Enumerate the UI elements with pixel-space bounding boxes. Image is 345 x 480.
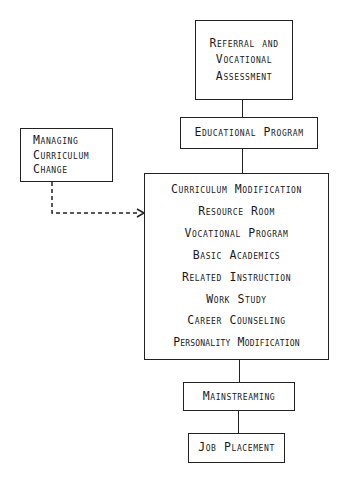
connector-mainstreaming-to-job: [238, 411, 239, 433]
component-item: Career Counseling: [187, 315, 285, 327]
job-placement-label: Job Placement: [198, 442, 275, 454]
component-item: Basic Academics: [193, 250, 281, 262]
job-placement-box: Job Placement: [188, 433, 285, 463]
arrowhead-icon: [137, 209, 144, 217]
component-item: Related Instruction: [182, 272, 291, 284]
mainstreaming-box: Mainstreaming: [183, 382, 295, 411]
component-item: Work Study: [206, 294, 267, 306]
connector-components-to-mainstreaming: [239, 360, 240, 382]
component-item: Vocational Program: [185, 228, 289, 240]
component-item: Resource Room: [198, 206, 275, 218]
component-item: Personality Modification: [173, 337, 300, 349]
mainstreaming-label: Mainstreaming: [203, 391, 276, 403]
program-components-box: Curriculum Modification Resource Room Vo…: [144, 173, 329, 360]
component-item: Curriculum Modification: [171, 184, 302, 196]
